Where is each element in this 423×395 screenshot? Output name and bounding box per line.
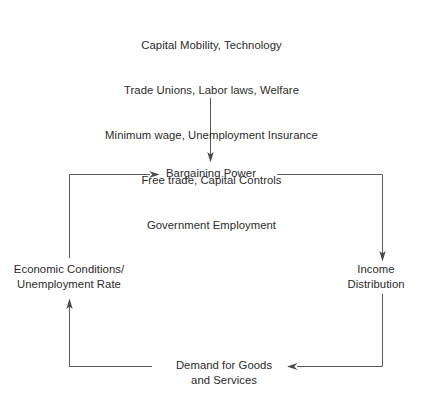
node-economic-conditions-unemployment-rate: Economic Conditions/ Unemployment Rate: [2, 262, 136, 292]
input-line-3: Minimum wage, Unemployment Insurance: [0, 128, 423, 143]
input-line-1: Capital Mobility, Technology: [0, 38, 423, 53]
input-line-2: Trade Unions, Labor laws, Welfare: [0, 83, 423, 98]
node-income-distribution: Income Distribution: [330, 262, 422, 292]
edge-income-distribution-to-demand: [287, 294, 383, 370]
node-bargaining-power: Bargaining Power: [141, 166, 281, 181]
node-demand-for-goods-and-services: Demand for Goods and Services: [157, 358, 291, 388]
edge-demand-to-economic-conditions: [66, 298, 152, 366]
policy-and-structural-inputs: Capital Mobility, Technology Trade Union…: [0, 8, 423, 263]
diagram-canvas: Capital Mobility, Technology Trade Union…: [0, 0, 423, 395]
input-line-5: Government Employment: [0, 218, 423, 233]
